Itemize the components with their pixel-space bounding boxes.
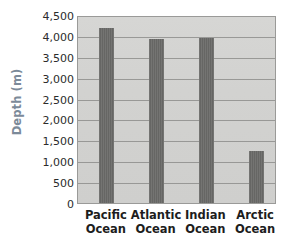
x-axis-category-label: ArcticOcean <box>230 208 280 236</box>
x-axis-category-label-line: Indian <box>181 208 231 222</box>
x-axis-category-label: AtlanticOcean <box>131 208 181 236</box>
x-axis-category-labels: PacificOceanAtlanticOceanIndianOceanArct… <box>77 208 276 250</box>
y-axis-tick-label: 2,500 <box>26 94 74 105</box>
y-axis-tick-label: 1,000 <box>26 157 74 168</box>
y-axis-tick-label: 3,000 <box>26 73 74 84</box>
bar <box>249 151 264 203</box>
x-axis-category-label: PacificOcean <box>81 208 131 236</box>
y-axis-tick-label: 4,000 <box>26 31 74 42</box>
y-axis-tick-label: 3,500 <box>26 52 74 63</box>
bar <box>149 39 164 203</box>
y-axis-tick-label: 4,500 <box>26 11 74 22</box>
x-axis-category-label-line: Ocean <box>181 222 231 236</box>
x-axis-category-label-line: Ocean <box>81 222 131 236</box>
bars <box>78 17 275 203</box>
y-axis-tick-label: 2,000 <box>26 115 74 126</box>
x-axis-category-label-line: Ocean <box>131 222 181 236</box>
x-axis-category-label-line: Ocean <box>230 222 280 236</box>
plot-area <box>77 16 276 204</box>
y-axis-tick-labels: 4,5004,0003,5003,0002,5002,0001,5001,000… <box>26 16 74 204</box>
bar <box>199 38 214 203</box>
x-axis-category-label-line: Atlantic <box>131 208 181 222</box>
y-axis-tick-label: 500 <box>26 178 74 189</box>
bar <box>99 28 114 203</box>
x-axis-category-label: IndianOcean <box>181 208 231 236</box>
x-axis-category-label-line: Arctic <box>230 208 280 222</box>
x-axis-category-label-line: Pacific <box>81 208 131 222</box>
y-axis-tick-label: 1,500 <box>26 136 74 147</box>
y-axis-tick-label: 0 <box>26 199 74 210</box>
bar-chart: Depth (m) 4,5004,0003,5003,0002,5002,000… <box>0 0 294 251</box>
y-axis-title: Depth (m) <box>10 55 24 149</box>
